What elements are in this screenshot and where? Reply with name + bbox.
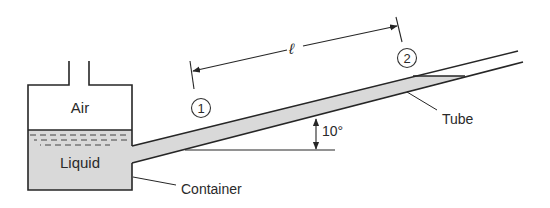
container-label: Container: [181, 181, 242, 197]
tube-label: Tube: [442, 111, 474, 127]
container-leader-line: [133, 177, 176, 185]
length-label: ℓ: [288, 40, 295, 57]
fluid-diagram: 10° ℓ 1 2 Air Liquid Container Tube: [0, 0, 550, 208]
dimension-line-left: [193, 50, 287, 71]
air-label: Air: [71, 99, 89, 116]
point-1-label: 1: [197, 101, 204, 116]
point-2-label: 2: [403, 51, 410, 66]
tick-point2: [396, 17, 402, 42]
tube-callout: Tube: [407, 92, 474, 127]
angle-label: 10°: [322, 123, 343, 139]
liquid-label: Liquid: [60, 154, 100, 171]
tube-leader-line: [407, 92, 437, 110]
tick-point1: [190, 61, 194, 89]
dimension-line-right: [303, 26, 397, 46]
container-callout: Container: [133, 177, 242, 197]
length-dimension: ℓ: [190, 17, 402, 89]
point-2-marker: 2: [398, 49, 417, 68]
point-1-marker: 1: [192, 99, 211, 118]
